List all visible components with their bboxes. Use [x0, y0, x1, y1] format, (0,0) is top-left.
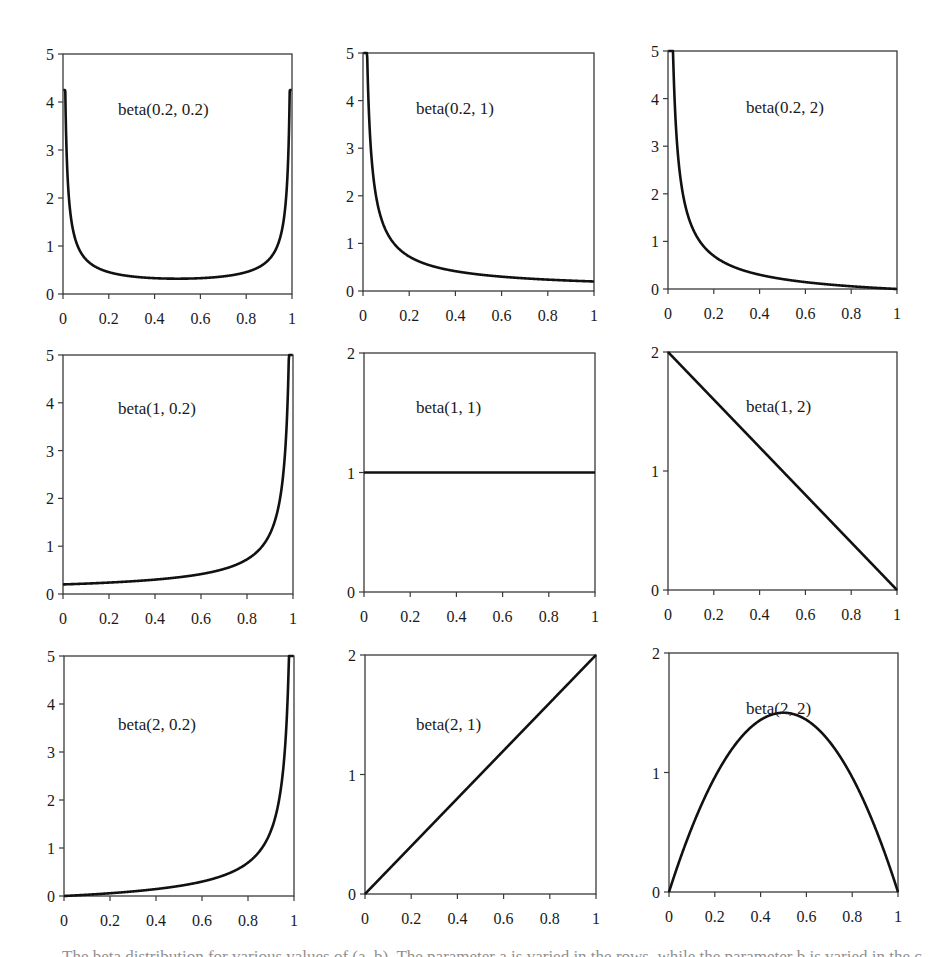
- x-tick-label: 0.6: [191, 610, 211, 627]
- panel-beta-1-0.2: 00.20.40.60.81012345beta(1, 0.2): [46, 347, 297, 627]
- panel-title: beta(0.2, 0.2): [118, 100, 209, 119]
- x-tick-label: 1: [893, 305, 901, 322]
- x-tick-label: 0.4: [145, 610, 165, 627]
- panel-beta-1-2: 00.20.40.60.81012beta(1, 2): [651, 344, 901, 623]
- density-curve: [64, 656, 294, 896]
- y-tick-label: 1: [46, 538, 54, 555]
- x-tick-label: 0.8: [841, 305, 861, 322]
- y-tick-label: 4: [651, 91, 659, 108]
- figure-caption: The beta distribution for various values…: [62, 946, 922, 957]
- y-tick-label: 0: [651, 281, 659, 298]
- x-tick-label: 0.4: [750, 606, 770, 623]
- x-tick-label: 0.8: [238, 912, 258, 929]
- x-tick-label: 0.2: [400, 608, 420, 625]
- y-tick-label: 3: [346, 140, 354, 157]
- x-tick-label: 1: [590, 307, 598, 324]
- x-tick-label: 1: [591, 608, 599, 625]
- panel-title: beta(2, 2): [746, 699, 811, 718]
- beta-distribution-grid: 00.20.40.60.81012345beta(0.2, 0.2) 00.20…: [0, 0, 941, 957]
- density-curve: [63, 355, 293, 584]
- x-tick-label: 0.8: [841, 606, 861, 623]
- density-curve: [669, 713, 898, 892]
- panel-beta-2-1: 00.20.40.60.81012beta(2, 1): [348, 647, 600, 927]
- plot-frame: [63, 355, 293, 594]
- plot-frame: [363, 53, 594, 291]
- panel-title: beta(0.2, 2): [746, 98, 824, 117]
- x-tick-label: 0.6: [492, 307, 512, 324]
- x-tick-label: 0.8: [538, 307, 558, 324]
- x-tick-label: 0.4: [145, 310, 165, 327]
- y-tick-label: 0: [46, 286, 54, 303]
- density-curve: [668, 352, 897, 590]
- x-tick-label: 0.6: [796, 908, 816, 925]
- x-tick-label: 0: [60, 912, 68, 929]
- x-tick-label: 0.8: [237, 610, 257, 627]
- panel-title: beta(1, 2): [746, 397, 811, 416]
- x-tick-label: 0: [664, 606, 672, 623]
- y-tick-label: 1: [346, 235, 354, 252]
- plot-frame: [63, 54, 292, 294]
- y-tick-label: 4: [46, 395, 54, 412]
- x-tick-label: 1: [894, 908, 902, 925]
- panel-title: beta(1, 0.2): [118, 399, 196, 418]
- panel-title: beta(1, 1): [416, 398, 481, 417]
- y-tick-label: 3: [47, 744, 55, 761]
- x-tick-label: 0: [59, 310, 67, 327]
- panel-title: beta(0.2, 1): [416, 99, 494, 118]
- x-tick-label: 0.4: [447, 910, 467, 927]
- y-tick-label: 4: [346, 93, 354, 110]
- panel-beta-0.2-1: 00.20.40.60.81012345beta(0.2, 1): [346, 45, 598, 324]
- y-tick-label: 1: [46, 238, 54, 255]
- y-tick-label: 1: [651, 463, 659, 480]
- x-tick-label: 0.2: [399, 307, 419, 324]
- y-tick-label: 2: [651, 186, 659, 203]
- panel-title: beta(2, 0.2): [118, 715, 196, 734]
- y-tick-label: 1: [347, 465, 355, 482]
- x-tick-label: 0.8: [540, 910, 560, 927]
- x-tick-label: 0.4: [146, 912, 166, 929]
- y-tick-label: 3: [651, 138, 659, 155]
- panel-beta-1-1: 00.20.40.60.81012beta(1, 1): [347, 345, 599, 625]
- y-tick-label: 0: [348, 886, 356, 903]
- y-tick-label: 5: [46, 46, 54, 63]
- y-tick-label: 1: [348, 767, 356, 784]
- x-tick-label: 0.4: [750, 305, 770, 322]
- x-tick-label: 1: [289, 610, 297, 627]
- y-tick-label: 2: [346, 188, 354, 205]
- x-tick-label: 0.8: [842, 908, 862, 925]
- panel-beta-0.2-0.2: 00.20.40.60.81012345beta(0.2, 0.2): [46, 46, 296, 327]
- y-tick-label: 2: [651, 344, 659, 361]
- x-tick-label: 0.8: [236, 310, 256, 327]
- panel-title: beta(2, 1): [416, 715, 481, 734]
- x-tick-label: 0.6: [190, 310, 210, 327]
- x-tick-label: 0.2: [704, 606, 724, 623]
- panel-beta-2-2: 00.20.40.60.81012beta(2, 2): [652, 645, 902, 925]
- x-tick-label: 0.2: [401, 910, 421, 927]
- x-tick-label: 0: [360, 608, 368, 625]
- x-tick-label: 0.2: [99, 310, 119, 327]
- y-tick-label: 2: [348, 647, 356, 664]
- y-tick-label: 1: [651, 233, 659, 250]
- x-tick-label: 0: [664, 305, 672, 322]
- y-tick-label: 3: [46, 142, 54, 159]
- x-tick-label: 0.2: [705, 908, 725, 925]
- density-curve: [365, 655, 596, 894]
- y-tick-label: 0: [347, 584, 355, 601]
- panel-beta-2-0.2: 00.20.40.60.81012345beta(2, 0.2): [47, 648, 298, 929]
- y-tick-label: 5: [346, 45, 354, 62]
- x-tick-label: 0.6: [494, 910, 514, 927]
- y-tick-label: 4: [46, 94, 54, 111]
- x-tick-label: 0.6: [795, 305, 815, 322]
- x-tick-label: 0.2: [704, 305, 724, 322]
- x-tick-label: 0.4: [446, 608, 466, 625]
- density-curve: [363, 53, 594, 281]
- y-tick-label: 3: [46, 443, 54, 460]
- x-tick-label: 0: [361, 910, 369, 927]
- density-curve: [668, 51, 897, 289]
- x-tick-label: 0: [59, 610, 67, 627]
- y-tick-label: 0: [346, 283, 354, 300]
- plot-frame: [64, 656, 294, 896]
- x-tick-label: 0.6: [192, 912, 212, 929]
- y-tick-label: 1: [47, 840, 55, 857]
- plot-frame: [669, 653, 898, 892]
